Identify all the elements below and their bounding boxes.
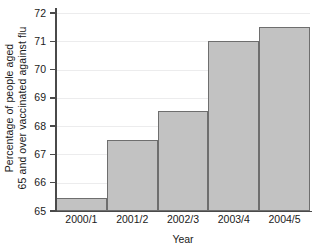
x-axis-tick-label: 2001/2: [107, 214, 158, 225]
y-axis-tick: [50, 97, 56, 98]
y-axis-title-line-1: Percentage of people aged: [3, 43, 15, 172]
x-axis-tick-labels: 2000/12001/22002/32003/42004/5: [56, 214, 310, 232]
bar: [158, 111, 209, 211]
y-axis-tick-label: 71: [34, 36, 46, 47]
y-axis-tick-label: 66: [34, 177, 46, 188]
y-axis-tick: [50, 125, 56, 126]
bar: [259, 27, 310, 211]
y-axis-tick-label: 69: [34, 92, 46, 103]
y-axis-tick: [50, 12, 56, 13]
y-axis-tick-label: 65: [34, 206, 46, 217]
y-axis-tick-label: 67: [34, 149, 46, 160]
y-axis-tick: [50, 41, 56, 42]
bars-container: [56, 13, 310, 211]
x-axis-title: Year: [56, 233, 310, 245]
x-axis-tick-label: 2004/5: [259, 214, 310, 225]
y-axis-tick: [50, 154, 56, 155]
x-axis-line: [55, 211, 312, 213]
x-axis-tick-label: 2003/4: [208, 214, 259, 225]
y-axis-tick: [50, 182, 56, 183]
x-axis-tick-label: 2000/1: [56, 214, 107, 225]
y-axis-tick: [50, 210, 56, 211]
bar: [107, 140, 158, 211]
bar: [56, 198, 107, 211]
x-axis-tick-label: 2002/3: [158, 214, 209, 225]
y-axis-tick-label: 70: [34, 64, 46, 75]
bar-chart: Percentage of people aged 65 and over va…: [0, 0, 328, 251]
y-axis-tick-label: 72: [34, 8, 46, 19]
y-axis-tick-label: 68: [34, 121, 46, 132]
y-axis-title-line-2: 65 and over vaccinated against flu: [16, 26, 28, 189]
y-axis-title: Percentage of people aged 65 and over va…: [0, 0, 34, 215]
y-axis-tick: [50, 69, 56, 70]
plot-area: [56, 13, 310, 211]
bar: [208, 41, 259, 211]
